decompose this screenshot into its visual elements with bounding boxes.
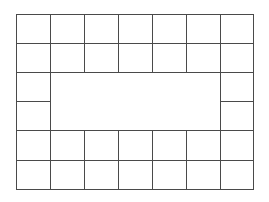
grid-cell: [118, 43, 153, 73]
empty-center-region: [50, 72, 221, 131]
grid-cell: [152, 14, 187, 44]
grid-cell: [50, 14, 85, 44]
grid-cell: [84, 130, 119, 161]
grid-cell: [16, 130, 51, 161]
grid-cell: [220, 160, 254, 190]
grid-cell: [84, 43, 119, 73]
grid-cell: [16, 101, 51, 131]
grid-cell: [118, 130, 153, 161]
grid-cell: [118, 14, 153, 44]
grid-cell: [84, 160, 119, 190]
grid-cell: [186, 14, 221, 44]
grid-cell: [16, 14, 51, 44]
grid-cell: [50, 130, 85, 161]
grid-cell: [152, 43, 187, 73]
grid-cell: [220, 130, 254, 161]
grid-frame-diagram: [0, 0, 269, 202]
grid-cell: [16, 160, 51, 190]
grid-cell: [220, 101, 254, 131]
grid-cell: [50, 160, 85, 190]
grid-cell: [220, 72, 254, 102]
grid-cell: [16, 43, 51, 73]
grid-cell: [152, 160, 187, 190]
grid-cell: [220, 43, 254, 73]
grid-cell: [84, 14, 119, 44]
grid-cell: [186, 160, 221, 190]
grid-cell: [186, 130, 221, 161]
grid-cell: [186, 43, 221, 73]
grid-cell: [118, 160, 153, 190]
grid-cell: [220, 14, 254, 44]
grid-cell: [16, 72, 51, 102]
grid-cell: [50, 43, 85, 73]
grid-cell: [152, 130, 187, 161]
